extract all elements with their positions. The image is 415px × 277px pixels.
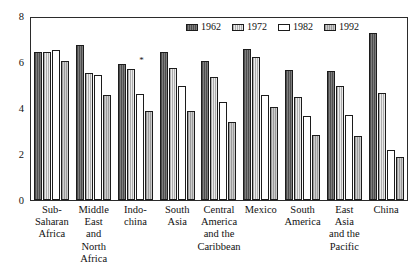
x-axis-category-label-line: Asia [315,216,373,228]
bar [312,135,320,200]
bar-group [198,18,240,200]
legend-swatch-icon [186,24,198,31]
bar [210,77,218,200]
legend-label: 1992 [339,22,359,32]
bar [345,115,353,200]
legend-item: 1992 [324,22,359,32]
bar [327,71,335,200]
bar [270,107,278,200]
bar-group [156,18,198,200]
bar [118,64,126,201]
x-axis-category-label-line: Pacific [315,241,373,253]
bar [187,111,195,200]
y-tick-label-2: 2 [0,150,30,161]
y-tick-label-8: 8 [0,12,30,23]
bar [145,111,153,200]
bar [127,69,135,200]
bar-group [240,18,282,200]
bar [285,70,293,200]
legend-swatch-icon [278,24,290,31]
legend-label: 1982 [293,22,313,32]
bar [160,52,168,200]
bar [103,95,111,200]
bar [85,73,93,200]
x-axis-category-label-line: and the [315,228,373,240]
legend-item: 1962 [186,22,221,32]
bar-group [282,18,324,200]
bar [178,86,186,200]
x-axis-category-label-line: America [190,216,248,228]
bars-layer: * [31,18,407,200]
bar [252,57,260,200]
bar-group [323,18,365,200]
legend-swatch-icon [324,24,336,31]
bar [52,50,60,200]
bar [369,33,377,200]
legend-label: 1962 [201,22,221,32]
legend-label: 1972 [247,22,267,32]
x-axis-category-label-line: and the [190,228,248,240]
x-axis-category-label-line: Africa [65,253,123,265]
x-axis-category-label-line: North [65,241,123,253]
bar-group [365,18,407,200]
bar [387,150,395,200]
bar [136,94,144,200]
bar [354,136,362,200]
legend-item: 1982 [278,22,313,32]
bar [169,68,177,200]
bar [228,122,236,200]
bar [336,86,344,200]
legend-swatch-icon [232,24,244,31]
x-axis-category-label-line: China [357,204,415,216]
bar-group [31,18,73,200]
bar [94,75,102,200]
y-tick-label-6: 6 [0,58,30,69]
x-axis-category-label: China [357,204,415,216]
bar [76,45,84,200]
bar [43,52,51,200]
bar [378,93,386,200]
bar-chart: 8 6 4 2 0 * 1962197219821992 Sub-Saharan… [0,0,415,277]
bar [294,97,302,201]
bar [34,52,42,200]
bar [219,102,227,200]
x-axis-category-label-line: and [65,228,123,240]
y-tick-label-4: 4 [0,104,30,115]
bar [243,49,251,200]
x-axis-category-label-line: Caribbean [190,241,248,253]
bar [303,116,311,200]
bar-group [115,18,157,200]
bar [61,61,69,200]
bar-group [73,18,115,200]
bar [261,95,269,200]
legend-item: 1972 [232,22,267,32]
chart-annotation-asterisk: * [139,56,144,65]
bar [201,61,209,200]
bar [396,157,404,200]
chart-legend: 1962197219821992 [186,22,359,32]
